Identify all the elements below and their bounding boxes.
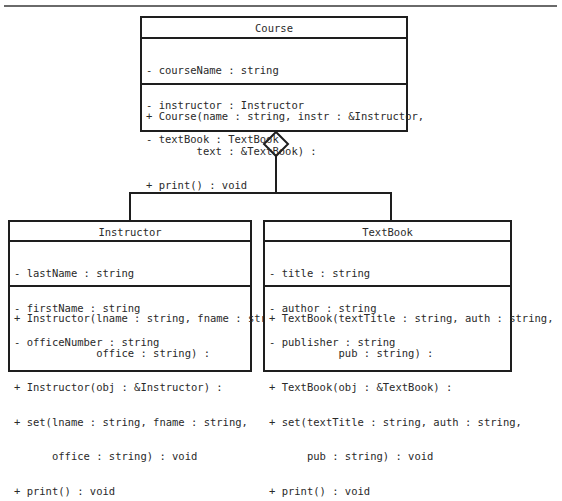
attributes-section: - title : string - author : string - pub…	[265, 242, 510, 287]
operation: + Instructor(obj : &Instructor) :	[14, 382, 250, 394]
class-textbook: TextBook - title : string - author : str…	[263, 220, 512, 372]
attributes-section: - courseName : string - instructor : Ins…	[142, 39, 406, 85]
class-name: TextBook	[265, 222, 510, 242]
operations-section: + TextBook(textTitle : string, auth : st…	[265, 287, 510, 501]
operation-continuation: text : &TextBook) :	[146, 146, 406, 158]
operation: + set(textTitle : string, auth : string,	[269, 417, 510, 429]
class-instructor: Instructor - lastName : string - firstNa…	[8, 220, 252, 372]
operation: + set(lname : string, fname : string,	[14, 417, 250, 429]
class-course: Course - courseName : string - instructo…	[140, 16, 408, 132]
class-name: Instructor	[10, 222, 250, 242]
operation-continuation: office : string) :	[14, 348, 250, 360]
operation: + print() : void	[269, 486, 510, 498]
operation: + TextBook(textTitle : string, auth : st…	[269, 313, 510, 325]
operation: + print() : void	[14, 486, 250, 498]
attribute: - courseName : string	[146, 65, 406, 77]
attribute: - title : string	[269, 268, 510, 280]
operation: + print() : void	[146, 180, 406, 192]
attribute: - lastName : string	[14, 268, 250, 280]
class-name: Course	[142, 18, 406, 39]
operation: + Course(name : string, instr : &Instruc…	[146, 111, 406, 123]
attributes-section: - lastName : string - firstName : string…	[10, 242, 250, 287]
operation-continuation: pub : string) : void	[269, 451, 510, 463]
operations-section: + Instructor(lname : string, fname : str…	[10, 287, 250, 501]
operation: + TextBook(obj : &TextBook) :	[269, 382, 510, 394]
operation-continuation: pub : string) :	[269, 348, 510, 360]
operation-continuation: office : string) : void	[14, 451, 250, 463]
operation: + Instructor(lname : string, fname : str…	[14, 313, 250, 325]
